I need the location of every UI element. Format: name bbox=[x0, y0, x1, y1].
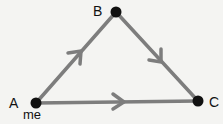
node-a-sublabel: me bbox=[23, 108, 41, 122]
edge-b-c bbox=[116, 12, 198, 101]
node-c-label: C bbox=[209, 95, 219, 109]
node-b bbox=[111, 7, 122, 18]
triangle-diagram bbox=[0, 0, 223, 124]
node-b-label: B bbox=[93, 4, 102, 18]
edge-a-b bbox=[36, 12, 116, 103]
node-c bbox=[193, 96, 204, 107]
node-a-label: A bbox=[9, 96, 18, 110]
edge-a-c bbox=[36, 101, 198, 103]
